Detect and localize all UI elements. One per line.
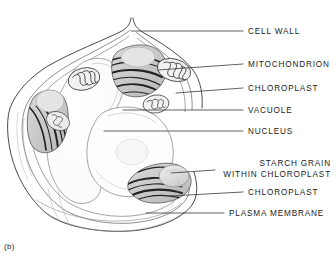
label-starch-grain-within-chloroplast: STARCH GRAIN WITHIN CHLOROPLAST [223, 159, 331, 180]
label-chloroplast-lower: CHLOROPLAST [248, 188, 318, 199]
label-nucleus: NUCLEUS [248, 127, 293, 138]
label-starch-grain-line1: STARCH GRAIN [223, 159, 331, 170]
label-chloroplast-upper: CHLOROPLAST [248, 84, 318, 95]
label-plasma-membrane: PLASMA MEMBRANE [229, 209, 324, 220]
label-vacuole: VACUOLE [248, 106, 292, 117]
label-starch-grain-line2: WITHIN CHLOROPLAST [223, 170, 331, 181]
figure-caption: (b) [4, 242, 15, 251]
leader-chloroplast-upper [176, 88, 243, 93]
label-cell-wall: CELL WALL [248, 27, 300, 38]
plant-cell-figure: CELL WALL MITOCHONDRION CHLOROPLAST VACU… [0, 0, 336, 261]
label-mitochondrion: MITOCHONDRION [248, 60, 330, 71]
starch-grain-body [159, 165, 189, 187]
